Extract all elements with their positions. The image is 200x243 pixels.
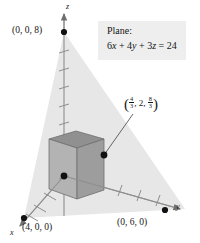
eq-equals: = <box>159 40 165 51</box>
math-figure-plane-and-box: Plane: 6x + 4y + 3z = 24 (0, 0, 8) (4, 0… <box>0 0 200 243</box>
inscribed-box <box>49 131 104 199</box>
label-x-intercept: (4, 0, 0) <box>22 223 52 233</box>
coord-close-paren: ) <box>153 97 158 112</box>
eq-var-x: x <box>112 40 116 51</box>
point-box-corner <box>101 152 108 159</box>
eq-op-2: + <box>139 40 145 51</box>
eq-op-1: + <box>119 40 125 51</box>
label-y-intercept: (0, 6, 0) <box>117 218 147 228</box>
point-z-intercept <box>61 29 67 35</box>
axis-label-z: z <box>66 3 69 11</box>
plane-callout-equation: 6x + 4y + 3z = 24 <box>107 41 177 51</box>
point-origin <box>61 173 68 180</box>
eq-var-z: z <box>152 40 156 51</box>
axis-label-y: y <box>176 203 180 211</box>
label-box-corner-coordinate: (43, 2, 83) <box>124 96 158 112</box>
label-z-intercept: (0, 0, 8) <box>12 26 42 36</box>
plane-callout-title: Plane: <box>107 26 132 36</box>
axis-label-x: x <box>10 229 14 237</box>
eq-var-y: y <box>132 40 136 51</box>
point-x-intercept <box>21 215 27 221</box>
eq-rhs: 24 <box>167 40 177 51</box>
plane-equation-callout: Plane: 6x + 4y + 3z = 24 <box>98 21 186 60</box>
point-y-intercept <box>162 207 168 213</box>
